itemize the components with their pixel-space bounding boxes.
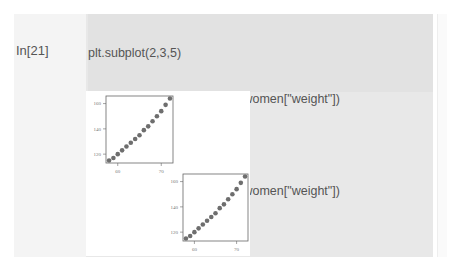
y-tick-label: 160 bbox=[171, 179, 179, 184]
scatter-point bbox=[243, 174, 248, 179]
scatter-point bbox=[120, 148, 125, 153]
y-tick-label: 120 bbox=[171, 230, 179, 235]
cell-output-figure: 12014016060701201401606070 bbox=[86, 91, 250, 256]
cell-prompt: In[21] bbox=[16, 43, 49, 58]
x-tick-label: 70 bbox=[159, 169, 165, 174]
x-tick-label: 70 bbox=[234, 247, 240, 252]
scatter-point bbox=[213, 211, 218, 216]
subplot-2-3-5: 1201401606070 bbox=[171, 174, 249, 252]
scatter-point bbox=[150, 119, 155, 124]
scatter-point bbox=[133, 137, 138, 142]
scatter-point bbox=[188, 234, 193, 239]
subplot-2-3-1: 1201401606070 bbox=[94, 96, 174, 174]
scatter-point bbox=[184, 236, 189, 241]
scatter-point bbox=[142, 128, 147, 133]
scatter-point bbox=[128, 140, 133, 145]
scatter-point bbox=[230, 192, 235, 197]
x-tick-label: 60 bbox=[115, 169, 121, 174]
code-line: plt.subplot(2,3,5) bbox=[88, 46, 433, 61]
scatter-point bbox=[196, 226, 201, 231]
scatter-point bbox=[155, 114, 160, 119]
scatter-point bbox=[163, 103, 168, 108]
y-tick-label: 160 bbox=[94, 101, 102, 106]
scatter-point bbox=[146, 124, 151, 129]
scatter-point bbox=[201, 222, 206, 227]
scatter-point bbox=[159, 109, 164, 114]
scrollbar[interactable] bbox=[437, 14, 447, 257]
y-tick-label: 140 bbox=[94, 127, 102, 132]
scatter-point bbox=[107, 158, 112, 163]
scatter-point bbox=[205, 218, 210, 223]
y-tick-label: 120 bbox=[94, 152, 102, 157]
y-tick-label: 140 bbox=[171, 205, 179, 210]
scatter-point bbox=[111, 156, 116, 161]
scatter-point bbox=[137, 133, 142, 138]
scatter-point bbox=[222, 202, 227, 207]
scatter-point bbox=[217, 206, 222, 211]
scatter-point bbox=[209, 215, 214, 220]
code-editor[interactable]: plt.subplot(2,3,5) plt.scatter(women["he… bbox=[88, 14, 433, 92]
scatter-point bbox=[239, 181, 244, 186]
x-tick-label: 60 bbox=[192, 247, 198, 252]
scatter-point bbox=[192, 230, 197, 235]
scatter-point bbox=[234, 187, 239, 192]
scatter-point bbox=[226, 197, 231, 202]
scatter-point bbox=[124, 144, 129, 149]
scatter-point bbox=[115, 152, 120, 157]
scatter-point bbox=[168, 96, 173, 101]
